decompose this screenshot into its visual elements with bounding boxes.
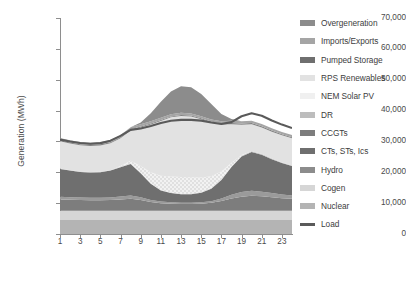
legend-item-label: NEM Solar PV: [321, 91, 374, 101]
x-tick-label: 3: [72, 237, 88, 246]
legend-swatch-icon: [300, 148, 315, 154]
legend-item[interactable]: CTs, STs, Ics: [300, 142, 406, 160]
legend-swatch-icon: [300, 223, 315, 226]
x-tick-mark: [201, 235, 202, 238]
x-tick-label: 11: [153, 237, 169, 246]
legend-item-label: Hydro: [321, 165, 343, 175]
legend-item[interactable]: Nuclear: [300, 197, 406, 215]
plot-area: [60, 18, 292, 234]
legend-item-label: CCGTs: [321, 128, 347, 138]
legend-swatch-icon: [300, 38, 315, 44]
x-tick-mark: [121, 235, 122, 238]
x-tick-mark: [161, 235, 162, 238]
x-axis-line: [60, 234, 293, 235]
x-tick-mark: [181, 235, 182, 238]
legend-swatch-icon: [300, 112, 315, 118]
x-tick-label: 9: [133, 237, 149, 246]
x-tick-label: 13: [173, 237, 189, 246]
legend-swatch-icon: [300, 93, 315, 99]
legend-swatch-icon: [300, 75, 315, 81]
x-tick-label: 21: [254, 237, 270, 246]
area-series: [60, 220, 292, 234]
x-tick-label: 17: [213, 237, 229, 246]
legend-swatch-icon: [300, 203, 315, 209]
legend-item[interactable]: Cogen: [300, 179, 406, 197]
legend-item[interactable]: Load: [300, 215, 406, 233]
stacked-area-series: [60, 18, 292, 234]
legend-item-label: RPS Renewables: [321, 73, 385, 83]
x-tick-mark: [262, 235, 263, 238]
legend-swatch-icon: [300, 57, 315, 63]
legend-item[interactable]: CCGTs: [300, 124, 406, 142]
x-tick-mark: [242, 235, 243, 238]
legend-item[interactable]: NEM Solar PV: [300, 87, 406, 105]
legend-item-label: Overgeneration: [321, 18, 378, 28]
x-tick-mark: [221, 235, 222, 238]
legend-item-label: Cogen: [321, 183, 345, 193]
legend-item[interactable]: DR: [300, 105, 406, 123]
legend-swatch-icon: [300, 130, 315, 136]
x-tick-mark: [80, 235, 81, 238]
legend-item-label: Pumped Storage: [321, 55, 383, 65]
x-tick-mark: [60, 235, 61, 238]
area-series: [60, 211, 292, 220]
legend-item[interactable]: Overgeneration: [300, 14, 406, 32]
legend-swatch-icon: [300, 167, 315, 173]
x-tick-mark: [282, 235, 283, 238]
legend-item-label: Imports/Exports: [321, 36, 378, 46]
legend-item[interactable]: Imports/Exports: [300, 32, 406, 50]
x-tick-label: 19: [234, 237, 250, 246]
x-tick-label: 5: [92, 237, 108, 246]
generation-stacked-area-chart: Generation (MWh) 010,00020,00030,00040,0…: [0, 0, 406, 282]
x-tick-label: 15: [193, 237, 209, 246]
x-tick-mark: [141, 235, 142, 238]
legend-item-label: Nuclear: [321, 201, 349, 211]
legend-item[interactable]: Hydro: [300, 160, 406, 178]
x-tick-label: 7: [113, 237, 129, 246]
chart-legend: OvergenerationImports/ExportsPumped Stor…: [300, 14, 406, 234]
x-tick-label: 23: [274, 237, 290, 246]
x-tick-mark: [100, 235, 101, 238]
legend-item-label: Load: [321, 219, 339, 229]
y-axis-title: Generation (MWh): [16, 66, 26, 196]
legend-item[interactable]: RPS Renewables: [300, 69, 406, 87]
legend-item-label: CTs, STs, Ics: [321, 146, 368, 156]
legend-swatch-icon: [300, 185, 315, 191]
legend-item-label: DR: [321, 110, 333, 120]
legend-item[interactable]: Pumped Storage: [300, 51, 406, 69]
x-tick-label: 1: [52, 237, 68, 246]
legend-swatch-icon: [300, 20, 315, 26]
